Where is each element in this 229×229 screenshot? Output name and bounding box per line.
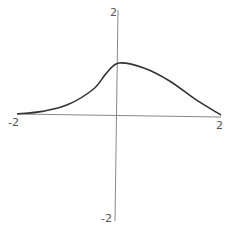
plot-area xyxy=(0,0,229,229)
x-axis xyxy=(17,114,221,117)
function-curve xyxy=(17,63,221,115)
y-tick-label-min: -2 xyxy=(101,213,112,224)
y-tick-label-max: 2 xyxy=(110,7,117,18)
x-tick-label-max: 2 xyxy=(216,120,223,131)
x-tick-label-min: -2 xyxy=(8,117,19,128)
